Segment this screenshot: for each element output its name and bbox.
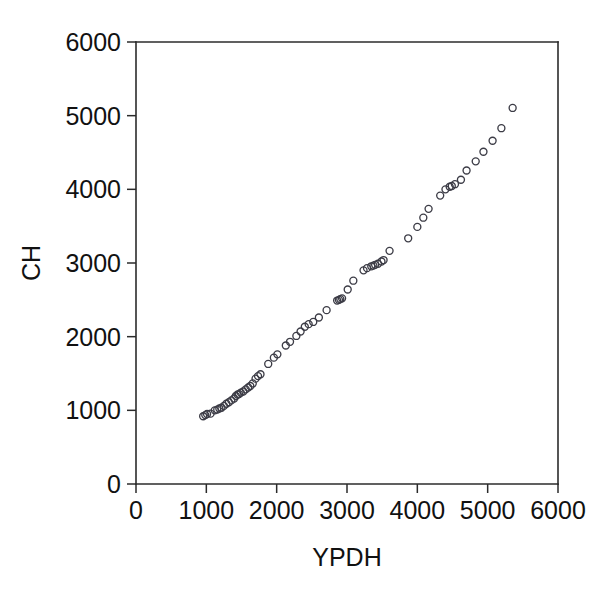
x-tick-label-2000: 2000: [249, 496, 305, 524]
x-axis-title: YPDH: [312, 543, 381, 571]
y-tick-label-4000: 4000: [65, 175, 121, 203]
y-tick-label-5000: 5000: [65, 102, 121, 130]
x-tick-label-5000: 5000: [460, 496, 516, 524]
x-tick-label-1000: 1000: [179, 496, 235, 524]
scatter-plot-figure: 0100020003000400050006000 01000200030004…: [0, 0, 616, 612]
figure-background: [0, 0, 616, 612]
y-tick-label-0: 0: [107, 470, 121, 498]
y-tick-label-6000: 6000: [65, 28, 121, 56]
x-tick-label-3000: 3000: [319, 496, 375, 524]
y-axis-title: CH: [17, 245, 45, 281]
y-tick-label-2000: 2000: [65, 323, 121, 351]
x-tick-label-6000: 6000: [530, 496, 586, 524]
x-tick-label-0: 0: [129, 496, 143, 524]
x-tick-label-4000: 4000: [390, 496, 446, 524]
y-tick-label-3000: 3000: [65, 249, 121, 277]
y-tick-label-1000: 1000: [65, 396, 121, 424]
